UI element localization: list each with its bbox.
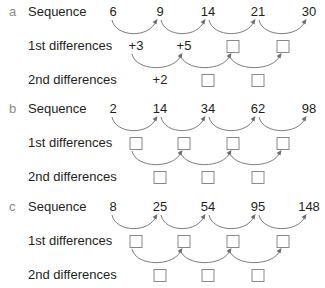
second-difference-answer-box[interactable]	[202, 74, 215, 87]
curved-arrow-icon	[259, 214, 307, 229]
curved-arrow-icon	[209, 116, 256, 131]
curved-arrow-icon	[229, 53, 282, 68]
sequence-term: 98	[302, 101, 316, 116]
curved-arrow-icon	[112, 116, 158, 131]
sequence-label: Sequence	[28, 199, 87, 214]
first-difference-answer-box[interactable]	[178, 235, 191, 248]
sequence-term: 34	[201, 101, 215, 116]
sequence-term: 148	[298, 199, 320, 214]
curved-arrow-icon	[132, 53, 183, 68]
second-differences-label: 2nd differences	[28, 169, 117, 184]
first-difference-answer-box[interactable]	[227, 40, 240, 53]
sequence-label: Sequence	[28, 101, 87, 116]
first-difference-value: +5	[177, 38, 192, 53]
sequence-term: 2	[109, 101, 116, 116]
curved-arrow-icon	[132, 150, 183, 165]
sequence-term: 8	[109, 199, 116, 214]
first-differences-label: 1st differences	[28, 38, 112, 53]
first-difference-answer-box[interactable]	[227, 235, 240, 248]
first-differences-label: 1st differences	[28, 233, 112, 248]
curved-arrow-icon	[209, 214, 256, 229]
curved-arrow-icon	[161, 19, 206, 34]
curved-arrow-icon	[161, 214, 206, 229]
sequence-term: 30	[302, 4, 316, 19]
section-letter: a	[9, 4, 16, 19]
first-difference-answer-box[interactable]	[227, 137, 240, 150]
second-difference-answer-box[interactable]	[154, 171, 167, 184]
curved-arrow-icon	[132, 248, 183, 263]
first-differences-label: 1st differences	[28, 135, 112, 150]
second-difference-answer-box[interactable]	[202, 269, 215, 282]
sequence-term: 25	[153, 199, 167, 214]
curved-arrow-icon	[259, 19, 307, 34]
second-differences-label: 2nd differences	[28, 267, 117, 282]
second-difference-answer-box[interactable]	[202, 171, 215, 184]
section-letter: c	[9, 199, 16, 214]
curved-arrow-icon	[229, 248, 282, 263]
curved-arrow-icon	[229, 150, 282, 165]
first-difference-answer-box[interactable]	[130, 137, 143, 150]
second-difference-answer-box[interactable]	[154, 269, 167, 282]
sequence-term: 14	[153, 101, 167, 116]
first-difference-value: +3	[129, 38, 144, 53]
sequence-term: 95	[251, 199, 265, 214]
sequence-term: 6	[109, 4, 116, 19]
first-difference-answer-box[interactable]	[178, 137, 191, 150]
first-difference-answer-box[interactable]	[277, 40, 290, 53]
sequence-term: 9	[156, 4, 163, 19]
curved-arrow-icon	[259, 116, 307, 131]
curved-arrow-icon	[180, 150, 232, 165]
section-letter: b	[9, 101, 16, 116]
first-difference-answer-box[interactable]	[130, 235, 143, 248]
sequence-label: Sequence	[28, 4, 87, 19]
first-difference-answer-box[interactable]	[277, 235, 290, 248]
second-differences-label: 2nd differences	[28, 72, 117, 87]
second-difference-answer-box[interactable]	[252, 171, 265, 184]
curved-arrow-icon	[180, 53, 232, 68]
second-difference-answer-box[interactable]	[252, 269, 265, 282]
first-difference-answer-box[interactable]	[277, 137, 290, 150]
curved-arrow-icon	[209, 19, 256, 34]
second-difference-answer-box[interactable]	[252, 74, 265, 87]
curved-arrow-icon	[112, 19, 158, 34]
sequence-term: 54	[201, 199, 215, 214]
sequence-term: 21	[251, 4, 265, 19]
second-difference-value: +2	[153, 72, 168, 87]
sequence-term: 62	[251, 101, 265, 116]
curved-arrow-icon	[180, 248, 232, 263]
curved-arrow-icon	[161, 116, 206, 131]
sequence-term: 14	[201, 4, 215, 19]
curved-arrow-icon	[112, 214, 158, 229]
